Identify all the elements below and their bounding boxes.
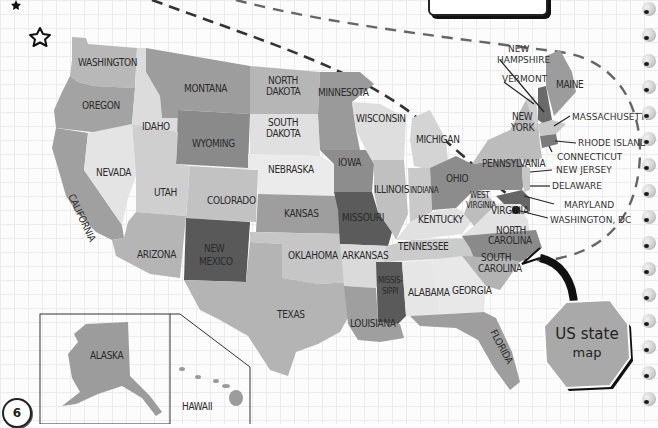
label-ohio: OHIO	[446, 173, 469, 184]
badge-line1: US state	[540, 325, 634, 343]
label-north-carolina-2: CAROLINA	[488, 235, 533, 246]
ring-icon	[642, 28, 656, 42]
ring-icon	[642, 106, 656, 120]
label-montana: MONTANA	[184, 83, 228, 94]
callout-washington-dc: WASHINGTON, DC	[550, 215, 631, 225]
label-south-dakota-2: DAKOTA	[266, 128, 302, 139]
label-kentucky: KENTUCKY	[418, 214, 464, 225]
label-oregon: OREGON	[82, 100, 120, 111]
label-wisconsin: WISCONSIN	[356, 113, 406, 124]
label-nebraska: NEBRASKA	[268, 164, 315, 175]
label-georgia: GEORGIA	[452, 285, 493, 296]
label-mississippi-2: SIPPI	[382, 287, 398, 296]
label-alabama: ALABAMA	[408, 287, 451, 298]
callout-new-jersey: NEW JERSEY	[556, 165, 612, 175]
ring-icon	[642, 184, 656, 198]
label-new-mexico-2: MEXICO	[199, 256, 233, 267]
label-tennessee: TENNESSEE	[397, 241, 449, 252]
label-new-york-2: YORK	[510, 122, 535, 133]
page-number: 6	[2, 398, 32, 428]
ring-icon	[642, 236, 656, 250]
state-arizona[interactable]	[112, 212, 186, 278]
callout-delaware: DELAWARE	[552, 181, 602, 191]
label-arkansas: ARKANSAS	[342, 250, 389, 261]
badge-arrow	[540, 258, 574, 308]
label-arizona: ARIZONA	[137, 249, 177, 260]
label-utah: UTAH	[154, 187, 177, 198]
label-nevada: NEVADA	[96, 167, 132, 178]
ring-icon	[642, 80, 656, 94]
label-indiana: INDIANA	[410, 186, 439, 195]
label-pennsylvania: PENNSYLVANIA	[482, 158, 546, 169]
label-south-carolina-1: SOUTH	[481, 252, 511, 263]
ring-icon	[642, 132, 656, 146]
ring-icon	[642, 262, 656, 276]
badge-label: US state map	[540, 325, 634, 360]
callout-new-hampshire-2: HAMPSHIRE	[497, 55, 551, 65]
label-kansas: KANSAS	[284, 208, 319, 219]
state-nebraska[interactable]	[248, 154, 338, 196]
label-washington: WASHINGTON	[78, 57, 137, 68]
star-icon-outline	[30, 28, 50, 46]
label-maine: MAINE	[556, 79, 584, 90]
label-oklahoma: OKLAHOMA	[288, 250, 339, 261]
badge-line2: map	[540, 345, 634, 360]
label-new-mexico-1: NEW	[204, 243, 225, 254]
ring-icon	[642, 314, 656, 328]
label-illinois: ILLINOIS	[374, 184, 410, 195]
callout-connecticut: CONNECTICUT	[557, 152, 623, 162]
label-minnesota: MINNESOTA	[318, 87, 370, 98]
label-north-dakota-2: DAKOTA	[266, 86, 302, 97]
label-louisiana: LOUISIANA	[350, 318, 397, 329]
ring-icon	[642, 54, 656, 68]
label-michigan: MICHIGAN	[416, 134, 460, 145]
callout-vermont: VERMONT	[502, 74, 548, 84]
label-virginia: VIRGINIA	[491, 205, 530, 216]
label-north-dakota-1: NORTH	[268, 75, 298, 86]
label-mississippi-1: MISSIS-	[378, 276, 403, 285]
ring-icon	[642, 158, 656, 172]
star-icon-filled	[11, 0, 21, 10]
label-south-dakota-1: SOUTH	[268, 117, 298, 128]
label-wyoming: WYOMING	[192, 138, 235, 149]
callout-new-hampshire-1: NEW	[508, 44, 529, 54]
state-alaska[interactable]	[62, 322, 162, 416]
ring-icon	[642, 340, 656, 354]
label-texas: TEXAS	[276, 309, 305, 320]
ring-icon	[642, 288, 656, 302]
label-alaska: ALASKA	[90, 350, 124, 361]
callout-massachusetts: MASSACHUSETTS	[572, 112, 651, 122]
ring-icon	[642, 2, 656, 16]
state-colorado[interactable]	[186, 166, 258, 222]
label-new-york-1: NEW	[512, 111, 533, 122]
label-hawaii: HAWAII	[182, 401, 212, 412]
label-south-carolina-2: CAROLINA	[478, 263, 523, 274]
callout-maryland: MARYLAND	[564, 200, 614, 210]
label-idaho: IDAHO	[142, 121, 170, 132]
label-west-virginia-1: WEST	[470, 191, 490, 200]
ring-icon	[642, 392, 656, 406]
callout-rhode-island: RHODE ISLAND	[578, 138, 647, 148]
label-iowa: IOWA	[338, 157, 362, 168]
ring-icon	[642, 366, 656, 380]
label-missouri: MISSOURI	[342, 212, 384, 223]
label-colorado: COLORADO	[207, 195, 256, 206]
ring-icon	[642, 210, 656, 224]
